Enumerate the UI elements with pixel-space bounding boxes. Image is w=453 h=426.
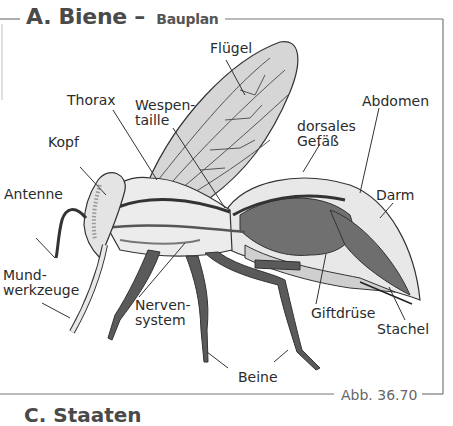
head bbox=[72, 173, 125, 332]
antenna bbox=[56, 210, 86, 258]
label-giftdruese: Giftdrüse bbox=[311, 306, 375, 321]
label-darm: Darm bbox=[376, 188, 415, 203]
figure-caption: Abb. 36.70 bbox=[336, 387, 422, 403]
figure-subtitle: Bauplan bbox=[156, 11, 218, 27]
label-kopf: Kopf bbox=[48, 135, 79, 150]
label-nervensystem: Nerven- system bbox=[135, 298, 191, 328]
label-mundwerkzeuge: Mund- werkzeuge bbox=[3, 268, 79, 298]
label-thorax: Thorax bbox=[67, 93, 116, 108]
label-antenne: Antenne bbox=[4, 187, 63, 202]
label-fluegel: Flügel bbox=[210, 41, 252, 56]
label-wespentaille: Wespen- taille bbox=[135, 98, 195, 128]
label-dorsales-gefaess: dorsales Gefäß bbox=[297, 119, 356, 149]
label-beine: Beine bbox=[238, 370, 278, 385]
label-stachel: Stachel bbox=[377, 322, 429, 337]
label-abdomen: Abdomen bbox=[362, 94, 429, 109]
figure-title: A. Biene – Bauplan bbox=[24, 4, 225, 29]
title-text: Biene bbox=[59, 4, 127, 29]
next-section-heading: C. Staaten bbox=[24, 403, 142, 426]
title-separator: – bbox=[134, 4, 145, 29]
section-letter: A. bbox=[26, 4, 51, 29]
